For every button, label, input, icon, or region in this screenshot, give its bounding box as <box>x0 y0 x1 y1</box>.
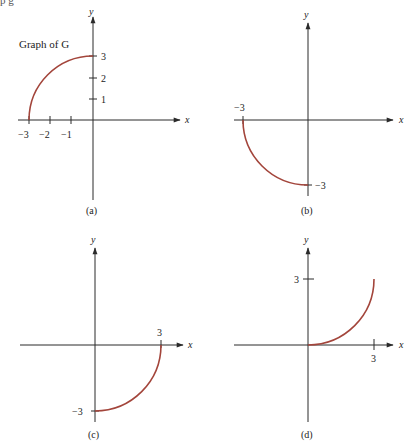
panel-b: x y −3 −3 (b) <box>234 9 404 217</box>
x-axis-label: x <box>187 339 193 350</box>
y-axis-label: y <box>303 234 309 245</box>
panel-d: x y 3 3 (d) <box>234 234 404 441</box>
graph-curve <box>243 120 308 185</box>
graph-curve <box>308 279 374 345</box>
panel-caption: (c) <box>88 429 99 441</box>
x-axis-label: x <box>398 114 404 125</box>
x-tick-label: 3 <box>157 327 162 338</box>
x-tick-label: −3 <box>234 102 245 113</box>
y-tick-label: 2 <box>101 73 106 84</box>
x-tick-label: 3 <box>371 353 376 364</box>
y-axis-label: y <box>303 9 309 20</box>
y-tick-label: 3 <box>101 51 106 62</box>
graph-curve <box>29 56 93 120</box>
panel-c: x y 3 −3 (c) <box>20 234 193 441</box>
x-tick-label: −3 <box>18 129 29 140</box>
graph-curve <box>95 345 161 411</box>
x-axis-label: x <box>184 114 190 125</box>
x-axis-label: x <box>398 339 404 350</box>
panel-caption: (b) <box>301 205 313 217</box>
panel-a: x y −3 −2 −1 3 2 1 Graph of G (a) <box>18 6 190 217</box>
y-axis-label: y <box>88 6 94 17</box>
graph-title: Graph of G <box>19 38 69 50</box>
y-tick-label: 1 <box>101 94 106 105</box>
panel-caption: (a) <box>86 205 97 217</box>
panel-caption: (d) <box>301 429 313 441</box>
x-tick-label: −2 <box>39 129 50 140</box>
y-tick-label: −3 <box>315 180 326 191</box>
y-tick-label: 3 <box>294 274 299 285</box>
y-axis-label: y <box>90 234 96 245</box>
y-tick-label: −3 <box>72 406 83 417</box>
x-tick-label: −1 <box>61 129 72 140</box>
